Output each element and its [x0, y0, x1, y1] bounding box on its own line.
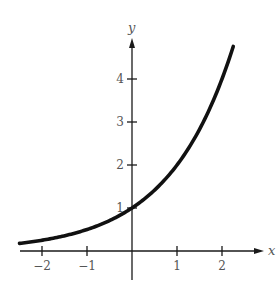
- tick-labels: −2−1121234: [33, 72, 226, 273]
- axes: [20, 38, 264, 280]
- x-axis-label: x: [268, 243, 276, 258]
- x-tick-label: −1: [78, 259, 96, 273]
- y-tick-label: 2: [116, 158, 124, 172]
- exponential-curve: [20, 46, 234, 243]
- y-axis-label: y: [127, 20, 136, 35]
- x-tick-label: 1: [173, 259, 181, 273]
- x-tick-label: −2: [33, 259, 51, 273]
- y-tick-label: 4: [116, 72, 124, 86]
- y-axis-arrow-icon: [129, 38, 135, 48]
- x-tick-label: 2: [218, 259, 226, 273]
- y-tick-label: 3: [116, 115, 124, 129]
- exponential-chart: −2−1121234 x y: [0, 0, 279, 292]
- x-axis-arrow-icon: [254, 248, 264, 254]
